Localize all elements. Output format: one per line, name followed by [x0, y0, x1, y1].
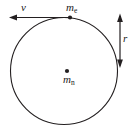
orbiting-mass-point [68, 15, 72, 19]
central-mass-symbol: m [63, 73, 71, 85]
central-mass-label: mn [63, 74, 75, 85]
velocity-label: v [21, 2, 26, 13]
orbiting-mass-subscript: e [74, 6, 77, 15]
orbiting-mass-symbol: m [66, 1, 74, 13]
central-mass-subscript: n [71, 78, 75, 87]
orbit-diagram-figure: v me mn r [0, 0, 135, 134]
diagram-canvas [0, 0, 135, 134]
radius-label: r [123, 33, 127, 44]
radius-symbol: r [123, 32, 127, 44]
radius-arrowhead-top [117, 14, 123, 23]
velocity-symbol: v [21, 1, 26, 13]
orbit-circle [11, 18, 118, 125]
radius-arrowhead-bottom [117, 60, 123, 69]
velocity-arrowhead [9, 15, 17, 21]
orbiting-mass-label: me [66, 2, 77, 13]
